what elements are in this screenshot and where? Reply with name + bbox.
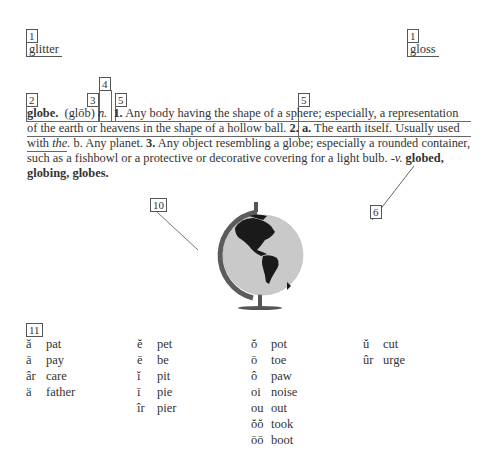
key-example-word: toe (271, 353, 286, 367)
headword: globe. (27, 106, 58, 120)
key-example-word: paw (271, 369, 292, 383)
key-symbol: ŏ (251, 337, 271, 352)
key-row: ĕpet (137, 337, 172, 352)
definition-text: of the earth or heavens in the shape of … (27, 121, 290, 135)
key-symbol: ĭ (137, 369, 157, 384)
callout-pronunciation-key: 11 (26, 323, 43, 337)
sense-number: 3. (146, 136, 155, 150)
definition-text: b. Any planet. (70, 136, 146, 150)
key-example-word: pet (157, 337, 172, 351)
verb-label: -v. (391, 151, 403, 165)
key-symbol: ō (251, 353, 271, 368)
callout-definition-2: 5 (298, 93, 310, 107)
pronunciation: (glōb) (65, 106, 95, 120)
key-symbol: îr (137, 401, 157, 416)
definition-text: Any body having the shape of a sphere; e… (123, 106, 459, 120)
key-symbol: ŭ (363, 337, 383, 352)
key-example-word: care (46, 369, 67, 383)
key-symbol: ou (251, 401, 271, 416)
key-example-word: urge (383, 353, 405, 367)
key-symbol: ä (26, 385, 46, 400)
entry-line-5: globing, globes. (27, 166, 109, 181)
entry-line-3: with the. b. Any planet. 3. Any object r… (27, 136, 470, 151)
definition-text: with (27, 136, 52, 150)
definition-text: The earth itself. Usually used (311, 121, 459, 135)
key-symbol: ă (26, 337, 46, 352)
part-of-speech: n. (98, 106, 107, 120)
key-row: ouout (251, 401, 287, 416)
key-row: oinoise (251, 385, 297, 400)
key-example-word: pat (46, 337, 61, 351)
entry-line-1: globe. (glōb) n. 1. Any body having the … (27, 106, 458, 121)
key-example-word: out (271, 401, 287, 415)
key-example-word: be (157, 353, 169, 367)
key-row: ōtoe (251, 353, 286, 368)
key-row: ûrurge (363, 353, 405, 368)
guide-word-right-text: gloss (407, 42, 439, 57)
callout-entry-word: 2 (26, 93, 38, 107)
sense-number: 1. (113, 106, 122, 120)
key-symbol: ā (26, 353, 46, 368)
callout-guide-word-left: 1 (26, 29, 38, 43)
key-row: ŏŏtook (251, 417, 293, 432)
callout-guide-word-right: 1 (407, 29, 419, 43)
key-row: ĭpit (137, 369, 170, 384)
key-example-word: pit (157, 369, 170, 383)
key-row: īpie (137, 385, 172, 400)
inflected-forms: globing, globes. (27, 166, 109, 180)
entry-line-2: of the earth or heavens in the shape of … (27, 121, 460, 136)
key-symbol: ī (137, 385, 157, 400)
key-row: āpay (26, 353, 64, 368)
key-row: ŭcut (363, 337, 398, 352)
key-example-word: took (271, 417, 293, 431)
key-row: ârcare (26, 369, 67, 384)
key-row: ēbe (137, 353, 169, 368)
callout-part-of-speech: 4 (99, 77, 111, 91)
key-example-word: pot (271, 337, 287, 351)
guide-word-left-text: glitter (26, 42, 62, 57)
key-row: îrpier (137, 401, 176, 416)
key-example-word: pier (157, 401, 176, 415)
callout-definition-1: 5 (115, 93, 127, 107)
key-symbol: âr (26, 369, 46, 384)
key-symbol: ŏŏ (251, 417, 271, 432)
pointer-line-illustration (155, 210, 205, 255)
key-symbol: ûr (363, 353, 383, 368)
key-symbol: ē (137, 353, 157, 368)
key-example-word: cut (383, 337, 398, 351)
key-symbol: ĕ (137, 337, 157, 352)
inflected-form: globed, (403, 151, 444, 165)
key-example-word: boot (271, 433, 293, 447)
key-example-word: noise (271, 385, 297, 399)
key-symbol: ōō (251, 433, 271, 448)
key-example-word: pay (46, 353, 64, 367)
key-symbol: oi (251, 385, 271, 400)
key-row: ŏpot (251, 337, 287, 352)
guide-word-left: glitter (26, 42, 62, 57)
globe-icon (205, 198, 305, 310)
key-example-word: father (46, 385, 75, 399)
key-row: ōōboot (251, 433, 293, 448)
definition-text: such as a fishbowl or a protective or de… (27, 151, 391, 165)
key-row: ăpat (26, 337, 61, 352)
callout-pronunciation: 3 (87, 93, 99, 107)
key-example-word: pie (157, 385, 172, 399)
sense-number: 2. a. (290, 121, 312, 135)
key-symbol: ô (251, 369, 271, 384)
usage-word: the. (52, 136, 70, 150)
key-row: ôpaw (251, 369, 292, 384)
key-row: äfather (26, 385, 75, 400)
guide-word-right: gloss (407, 42, 439, 57)
callout-inflected-forms: 6 (370, 205, 382, 219)
definition-text: Any object resembling a globe; especiall… (155, 136, 470, 150)
